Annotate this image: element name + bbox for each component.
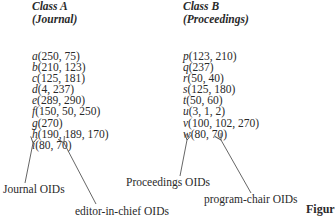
program-chair-oids-label: program-chair OIDs (204, 193, 298, 205)
journal-oids-label: Journal OIDs (3, 183, 65, 195)
proceedings-oids-label: Proceedings OIDs (126, 176, 210, 188)
editor-in-chief-oids-arrow-icon (64, 143, 96, 204)
figure-caption: Figur (306, 202, 335, 217)
proceedings-oids-arrow-icon (180, 140, 187, 176)
journal-oids-arrow-icon (25, 143, 33, 183)
editor-in-chief-oids-label: editor-in-chief OIDs (75, 205, 169, 217)
program-chair-oids-arrow-icon (221, 140, 251, 193)
